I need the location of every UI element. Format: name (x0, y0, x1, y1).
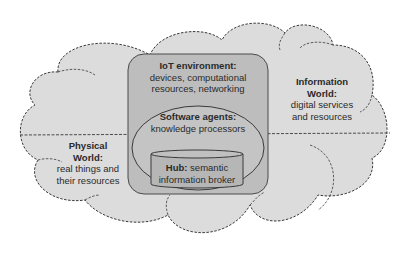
physical-world-label: Physical World: real things and their re… (48, 140, 128, 186)
information-world-line1: digital services (282, 99, 362, 111)
hub-line1-rest: semantic (187, 162, 228, 173)
information-world-line2: and resources (282, 111, 362, 123)
software-agents-title: Software agents: (140, 111, 256, 123)
iot-environment-line2: resources, networking (130, 83, 266, 95)
physical-world-title1: Physical (48, 140, 128, 152)
software-agents-label: Software agents: knowledge processors (140, 111, 256, 134)
hub-title: Hub: (166, 162, 188, 173)
iot-environment-line1: devices, computational (130, 72, 266, 84)
hub-line1: Hub: semantic (151, 162, 243, 174)
information-world-title2: World: (282, 88, 362, 100)
physical-world-line1: real things and (48, 163, 128, 175)
iot-environment-label: IoT environment: devices, computational … (130, 60, 266, 95)
software-agents-line1: knowledge processors (140, 123, 256, 135)
information-world-label: Information World: digital services and … (282, 76, 362, 122)
hub-line2: information broker (151, 174, 243, 186)
physical-world-line2: their resources (48, 175, 128, 187)
physical-world-title2: World: (48, 152, 128, 164)
information-world-title1: Information (282, 76, 362, 88)
hub-label: Hub: semantic information broker (151, 162, 243, 185)
iot-environment-title: IoT environment: (130, 60, 266, 72)
